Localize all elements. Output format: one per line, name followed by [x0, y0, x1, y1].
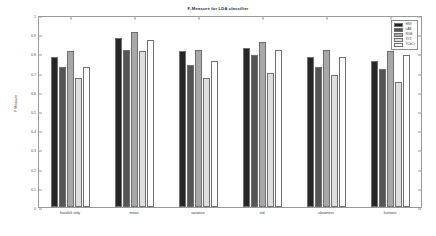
bar-ycbcr-kurtosis — [403, 55, 410, 207]
legend-swatch-icon — [394, 33, 403, 36]
y-axis-tick-mark — [39, 36, 42, 37]
bar-hsv-haralick-only — [51, 57, 58, 207]
chart-title: F-Measure for LDA classifier — [0, 6, 436, 11]
y-axis-tick-mark — [418, 132, 421, 133]
y-axis-tick-mark — [418, 113, 421, 114]
y-axis-tick-mark — [418, 74, 421, 75]
bar-group — [51, 17, 91, 207]
y-axis-tick-mark — [39, 132, 42, 133]
bar-ycbcr-haralick-only — [83, 67, 90, 207]
bar-hsv-variance — [179, 51, 186, 207]
bar-ycbcr-std — [275, 50, 282, 207]
bar-xyz-mean — [139, 51, 146, 207]
bar-rgb-haralick-only — [67, 51, 74, 207]
bar-xyz-variance — [203, 78, 210, 207]
bar-lab-skewness — [315, 67, 322, 207]
y-axis-tick-mark — [418, 55, 421, 56]
y-axis-tick-label: 0.8 — [31, 53, 36, 57]
y-axis-tick-label: 0.2 — [31, 169, 36, 173]
figure: F-Measure for LDA classifier F Measure H… — [0, 0, 436, 236]
bar-xyz-kurtosis — [395, 82, 402, 207]
bar-rgb-skewness — [323, 50, 330, 207]
y-axis-tick-label: 0.7 — [31, 73, 36, 77]
bar-ycbcr-variance — [211, 61, 218, 207]
x-axis-tick-label: kurtosis — [384, 211, 396, 215]
y-axis-tick-mark — [418, 93, 421, 94]
bar-group — [243, 17, 283, 207]
legend-swatch-icon — [394, 38, 403, 41]
x-axis-tick-mark — [199, 204, 200, 207]
x-axis-tick-mark — [327, 204, 328, 207]
legend-label: RGB — [405, 33, 412, 36]
bar-hsv-std — [243, 48, 250, 207]
y-axis-tick-mark — [39, 189, 42, 190]
y-axis-tick-mark — [39, 17, 42, 18]
y-axis-tick-mark — [39, 209, 42, 210]
x-axis-tick-mark — [71, 17, 72, 20]
bar-rgb-mean — [131, 32, 138, 207]
bar-hsv-kurtosis — [371, 61, 378, 207]
y-axis-tick-mark — [39, 74, 42, 75]
bar-lab-mean — [123, 50, 130, 207]
y-axis-tick-mark — [418, 151, 421, 152]
y-axis-tick-label: 0.9 — [31, 34, 36, 38]
bar-group — [115, 17, 155, 207]
bar-group — [307, 17, 347, 207]
bar-lab-haralick-only — [59, 67, 66, 207]
y-axis-tick-mark — [418, 189, 421, 190]
x-axis-tick-mark — [199, 17, 200, 20]
bar-group — [179, 17, 219, 207]
x-axis-tick-mark — [135, 204, 136, 207]
plot-area: HSVLABRGBXYZYCbCr 00.10.20.30.40.50.60.7… — [38, 16, 422, 208]
y-axis-tick-mark — [39, 113, 42, 114]
x-axis-tick-mark — [391, 17, 392, 20]
bar-hsv-skewness — [307, 57, 314, 207]
bar-rgb-kurtosis — [387, 51, 394, 207]
y-axis-tick-mark — [39, 170, 42, 171]
x-axis-tick-mark — [263, 204, 264, 207]
x-axis-tick-label: mean — [130, 211, 139, 215]
x-axis-tick-mark — [327, 17, 328, 20]
y-axis-tick-label: 0.4 — [31, 130, 36, 134]
bar-lab-kurtosis — [379, 69, 386, 207]
legend-label: HSV — [405, 23, 412, 26]
legend-label: LAB — [405, 28, 411, 31]
bar-ycbcr-skewness — [339, 57, 346, 207]
legend-swatch-icon — [394, 23, 403, 26]
y-axis-tick-label: 0 — [34, 207, 36, 211]
y-axis-tick-label: 0.1 — [31, 188, 36, 192]
bar-hsv-mean — [115, 38, 122, 207]
y-axis-tick-mark — [418, 17, 421, 18]
x-axis-tick-mark — [391, 204, 392, 207]
y-axis-tick-mark — [39, 93, 42, 94]
bar-xyz-skewness — [331, 75, 338, 207]
x-axis-tick-label: skewness — [318, 211, 334, 215]
y-axis-tick-mark — [39, 151, 42, 152]
bar-lab-variance — [187, 65, 194, 207]
bar-rgb-std — [259, 42, 266, 207]
legend-swatch-icon — [394, 28, 403, 31]
y-axis-tick-label: 0.6 — [31, 92, 36, 96]
y-axis-tick-mark — [418, 36, 421, 37]
x-axis-tick-label: variance — [191, 211, 205, 215]
bar-xyz-haralick-only — [75, 78, 82, 207]
y-axis-tick-mark — [418, 170, 421, 171]
legend-label: YCbCr — [405, 43, 415, 46]
y-axis-tick-mark — [418, 209, 421, 210]
y-axis-tick-label: 1 — [34, 15, 36, 19]
legend: HSVLABRGBXYZYCbCr — [391, 20, 418, 50]
bar-rgb-variance — [195, 50, 202, 207]
bar-xyz-std — [267, 73, 274, 207]
x-axis-tick-mark — [263, 17, 264, 20]
y-axis-tick-label: 0.5 — [31, 111, 36, 115]
y-axis-label: F Measure — [14, 95, 18, 112]
legend-item: YCbCr — [394, 43, 415, 48]
x-axis-tick-label: std — [260, 211, 265, 215]
x-axis-tick-mark — [71, 204, 72, 207]
y-axis-tick-label: 0.3 — [31, 149, 36, 153]
bar-ycbcr-mean — [147, 40, 154, 207]
y-axis-tick-mark — [39, 55, 42, 56]
x-axis-tick-mark — [135, 17, 136, 20]
x-axis-tick-label: haralick only — [60, 211, 80, 215]
legend-swatch-icon — [394, 43, 403, 46]
